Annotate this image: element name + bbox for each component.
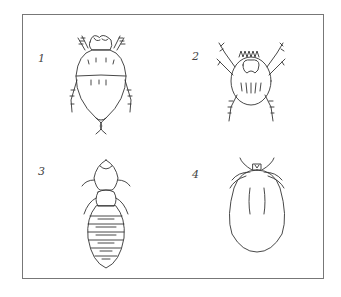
louse-illustration-3 [78, 158, 134, 270]
mite-illustration-2 [215, 35, 290, 130]
mite-illustration-1 [66, 30, 136, 135]
panel-label-1: 1 [38, 52, 45, 65]
tick-illustration-4 [222, 158, 292, 256]
panel-label-4: 4 [192, 168, 199, 181]
panel-label-2: 2 [192, 50, 199, 63]
panel-label-3: 3 [38, 165, 45, 178]
